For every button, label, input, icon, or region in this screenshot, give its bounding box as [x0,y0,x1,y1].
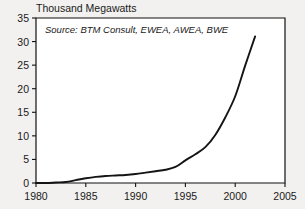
x-tick-label: 1985 [74,190,98,202]
x-tick-label: 1980 [24,190,48,202]
x-tick-label: 2005 [273,190,297,202]
chart-title: Thousand Megawatts [36,2,136,14]
y-tick-label: 30 [17,36,29,48]
y-tick-label: 20 [17,83,29,95]
y-tick-label: 0 [23,177,29,189]
y-tick-label: 35 [17,12,29,24]
y-tick-label: 10 [17,130,29,142]
source-annotation: Source: BTM Consult, EWEA, AWEA, BWE [45,24,229,35]
chart-figure: Thousand Megawatts Source: BTM Consult, … [0,0,305,209]
x-tick-label: 2000 [224,190,248,202]
y-tick-label: 25 [17,59,29,71]
x-tick-label: 1990 [124,190,148,202]
y-tick-label: 5 [23,153,29,165]
line-chart: Thousand Megawatts Source: BTM Consult, … [0,0,305,209]
x-tick-label: 1995 [174,190,198,202]
y-tick-label: 15 [17,106,29,118]
